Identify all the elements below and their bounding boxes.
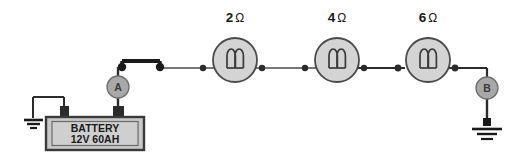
lamp-2-resistance-label: 4Ω bbox=[328, 10, 347, 25]
junction-dot-lamp2-right bbox=[361, 65, 367, 71]
test-point-b-label: B bbox=[483, 82, 491, 94]
lamp-1-resistance-label: 2Ω bbox=[226, 10, 245, 25]
switch-closed[interactable] bbox=[118, 61, 164, 71]
junction-dot-lamp3-right bbox=[452, 65, 459, 72]
circuit-diagram: 2Ω 4Ω 6Ω bbox=[0, 0, 521, 160]
battery[interactable]: BATTERY 12V 60AH bbox=[46, 106, 144, 150]
junction-dot-lamp3-left bbox=[395, 65, 402, 72]
junction-dot-lamp1-left bbox=[200, 65, 206, 71]
test-point-a-label: A bbox=[114, 81, 122, 93]
lamp-3[interactable]: 6Ω bbox=[406, 10, 450, 82]
lamp-1[interactable]: 2Ω bbox=[213, 10, 257, 82]
circuit-schematic-canvas: 2Ω 4Ω 6Ω bbox=[0, 0, 521, 160]
ground-right-icon bbox=[472, 118, 502, 139]
battery-rating-label: 12V 60AH bbox=[71, 133, 119, 145]
junction-dot-lamp2-left bbox=[302, 65, 308, 71]
ground-right-pad bbox=[483, 118, 491, 126]
lamp-2[interactable]: 4Ω bbox=[315, 10, 359, 82]
test-point-b[interactable]: B bbox=[476, 77, 498, 122]
switch-terminal-right bbox=[156, 63, 164, 71]
junction-dot-lamp1-right bbox=[259, 65, 265, 71]
lamp-3-resistance-label: 6Ω bbox=[419, 10, 438, 25]
